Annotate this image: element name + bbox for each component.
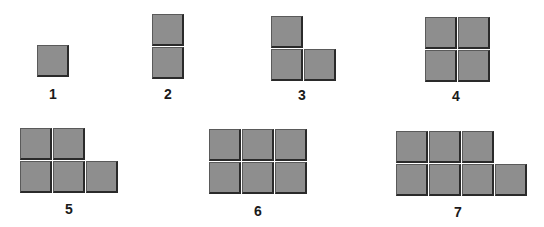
square-cell: [209, 129, 241, 161]
square-cell: [53, 161, 85, 193]
square-cell: [242, 162, 274, 194]
square-cell: [396, 164, 428, 196]
square-cell: [209, 162, 241, 194]
square-cell: [86, 161, 118, 193]
square-cell: [429, 131, 461, 163]
figure-label-7: 7: [448, 204, 468, 220]
figure-label-6: 6: [248, 203, 268, 219]
square-cell: [20, 128, 52, 160]
square-cell: [53, 128, 85, 160]
square-cell: [20, 161, 52, 193]
figure-label-4: 4: [446, 88, 466, 104]
square-cell: [271, 49, 303, 81]
figure-label-1: 1: [43, 86, 63, 102]
square-cell: [275, 129, 307, 161]
figure-label-2: 2: [158, 86, 178, 102]
figure-label-5: 5: [59, 201, 79, 217]
square-cell: [425, 50, 457, 82]
square-cell: [37, 45, 69, 77]
square-cell: [458, 17, 490, 49]
square-cell: [304, 49, 336, 81]
square-cell: [152, 14, 184, 46]
square-cell: [271, 16, 303, 48]
square-cell: [495, 164, 527, 196]
square-cell: [429, 164, 461, 196]
square-cell: [152, 47, 184, 79]
square-cell: [425, 17, 457, 49]
square-cell: [396, 131, 428, 163]
square-cell: [462, 131, 494, 163]
square-cell: [275, 162, 307, 194]
square-cell: [462, 164, 494, 196]
figure-label-3: 3: [292, 87, 312, 103]
square-cell: [458, 50, 490, 82]
square-cell: [242, 129, 274, 161]
